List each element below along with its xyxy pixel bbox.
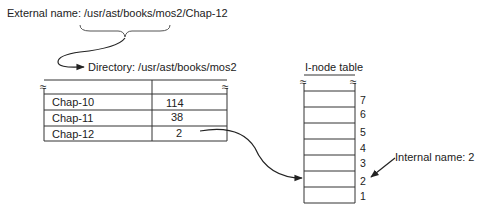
inode-break-symbol-left: ≈ (300, 76, 307, 88)
dir-entry-name: Chap-10 (52, 97, 94, 108)
inode-number: 1 (360, 191, 366, 202)
inode-number: 7 (360, 95, 366, 106)
dir-entry-name: Chap-12 (52, 129, 94, 140)
break-symbol-left: ≈ (40, 81, 47, 93)
inode-number: 4 (360, 143, 366, 154)
inode-table-title: I-node table (305, 62, 363, 73)
inode-break-symbol-right: ≈ (350, 76, 357, 88)
dir-entry-inode: 2 (176, 128, 182, 139)
brace (80, 25, 170, 37)
directory-title: Directory: /usr/ast/books/mos2 (88, 62, 237, 73)
internal-name-arrow (371, 158, 395, 177)
dir-entry-name: Chap-11 (52, 113, 93, 124)
external-name-label: External name: /usr/ast/books/mos2/Chap-… (7, 8, 228, 19)
internal-name-label: Internal name: 2 (395, 152, 475, 163)
inode-number: 6 (360, 109, 366, 120)
inode-number: 3 (360, 158, 366, 169)
dir-entry-inode: 38 (171, 112, 183, 123)
inode-number: 5 (360, 127, 366, 138)
entry-to-inode-arrow (200, 129, 302, 178)
break-symbol-right: ≈ (222, 81, 229, 93)
inode-table (304, 75, 355, 203)
dir-entry-inode: 114 (166, 98, 184, 109)
inode-number: 2 (360, 176, 366, 187)
